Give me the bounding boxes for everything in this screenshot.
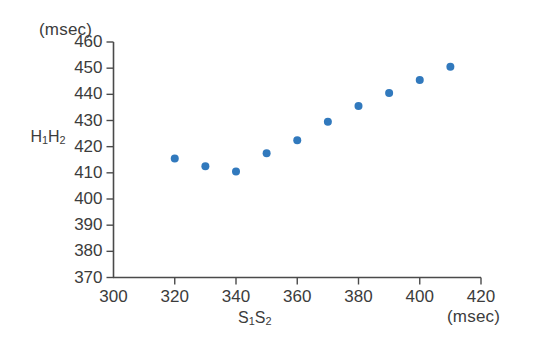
y-axis-tick-label: 400 <box>47 190 103 207</box>
y-axis-tick-label: 370 <box>47 269 103 286</box>
y-axis-tick-label: 450 <box>47 59 103 76</box>
x-axis-tick-label: 300 <box>84 288 144 305</box>
data-point <box>324 118 332 126</box>
data-point <box>263 149 271 157</box>
y-axis-ticks <box>107 42 114 278</box>
y-axis-tick-label: 460 <box>47 33 103 50</box>
y-axis-tick-label: 440 <box>47 85 103 102</box>
y-axis-tick-label: 430 <box>47 112 103 129</box>
x-axis-tick-label: 420 <box>451 288 511 305</box>
x-axis-tick-label: 320 <box>145 288 205 305</box>
y-axis-tick-label: 380 <box>47 242 103 259</box>
y-axis-tick-label: 420 <box>47 138 103 155</box>
x-axis-tick-label: 340 <box>206 288 266 305</box>
y-axis-tick-label: 410 <box>47 164 103 181</box>
x-axis-tick-label: 400 <box>390 288 450 305</box>
axis-lines <box>113 42 481 278</box>
data-point <box>446 63 454 71</box>
y-axis-tick-label: 390 <box>47 216 103 233</box>
data-point <box>416 76 424 84</box>
data-point <box>232 168 240 176</box>
scatter-chart-figure: (msec) H1H2 S1S2 (msec) 3703803904004104… <box>0 0 547 346</box>
data-point <box>171 154 179 162</box>
x-axis-tick-label: 380 <box>329 288 389 305</box>
data-point <box>293 136 301 144</box>
data-point <box>385 89 393 97</box>
x-axis-ticks <box>175 278 481 285</box>
data-point <box>355 102 363 110</box>
data-point-group <box>171 63 455 176</box>
data-point <box>201 162 209 170</box>
x-axis-tick-label: 360 <box>267 288 327 305</box>
